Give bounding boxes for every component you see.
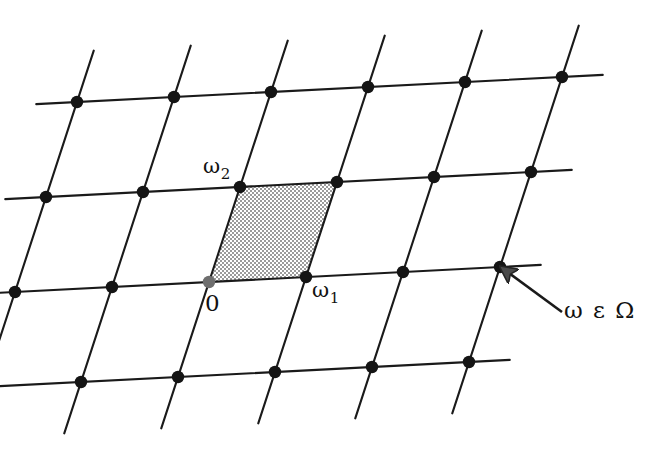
label-omega-1-sub: 1 [330, 289, 340, 307]
fundamental-cell [209, 182, 337, 282]
lattice-node [71, 96, 83, 108]
lattice-node [362, 81, 374, 93]
lattice-figure: ω2 ω1 0 ω ε Ω [0, 0, 647, 460]
lattice-node [106, 281, 118, 293]
lattice-node [75, 376, 87, 388]
lattice-node [269, 366, 281, 378]
lattice-canvas [0, 0, 647, 460]
gridline-omega2-dir [64, 46, 190, 434]
lattice-node [331, 176, 343, 188]
gridline-omega2-dir [355, 31, 481, 419]
label-omega-in-omega-base: ω ε Ω [564, 297, 636, 323]
lattice-node [234, 181, 246, 193]
fundamental-parallelogram [209, 182, 337, 282]
lattice-node [366, 361, 378, 373]
gridline-omega2-dir [452, 26, 578, 414]
lattice-node [459, 76, 471, 88]
lattice-node [556, 71, 568, 83]
lattice-node [168, 91, 180, 103]
lattice-node [494, 261, 506, 273]
annotation-arrow [502, 268, 562, 312]
label-omega-2-base: ω [203, 154, 220, 178]
label-omega-2: ω2 [203, 156, 230, 182]
lattice-node [525, 166, 537, 178]
label-omega-1: ω1 [312, 280, 339, 306]
label-origin: 0 [205, 292, 220, 315]
lattice-node [172, 371, 184, 383]
membership-annotation [502, 268, 562, 312]
lattice-node [40, 191, 52, 203]
lattice-node-origin [203, 276, 215, 288]
lattice-node [428, 171, 440, 183]
label-omega-in-omega: ω ε Ω [564, 299, 636, 322]
lattice-node [463, 356, 475, 368]
lattice-node [9, 286, 21, 298]
lattice-node [300, 271, 312, 283]
lattice-node [265, 86, 277, 98]
label-origin-base: 0 [205, 290, 220, 316]
lattice-node [137, 186, 149, 198]
gridline-omega1-dir [36, 75, 602, 104]
label-omega-2-sub: 2 [221, 165, 231, 183]
lattice-node [397, 266, 409, 278]
label-omega-1-base: ω [312, 278, 329, 302]
